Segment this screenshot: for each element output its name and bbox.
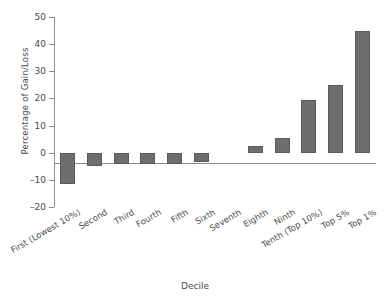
y-tick-label: 20 [35,93,46,103]
chart-figure: Percentage of Gain/Loss –20–100102030405… [0,0,390,304]
bar [248,146,263,153]
bar [355,31,370,153]
bar [167,153,182,164]
bar [275,138,290,153]
y-tick-label: –20 [30,202,46,212]
x-tick-label: Top 1% [346,207,377,231]
y-tick-label: –10 [30,175,46,185]
bar-series [54,17,376,207]
y-tick-label: 10 [35,121,46,131]
y-tick-label: 50 [35,12,46,22]
bar [140,153,155,164]
y-axis-title: Percentage of Gain/Loss [20,16,30,186]
y-tick-label: 40 [35,39,46,49]
bar [328,85,343,153]
x-tick-label: Fifth [169,207,190,225]
x-tick-label: First (Lowest 10%) [9,207,82,255]
bar [114,153,129,164]
plot-area: –20–1001020304050 [54,17,376,207]
bar [60,153,75,184]
x-tick-label: Eighth [242,207,271,229]
bar [194,153,209,163]
y-tick-label: 30 [35,66,46,76]
x-axis-title: Decile [0,281,390,291]
y-tick-label: 0 [40,148,46,158]
x-tick-label: Third [112,207,136,227]
x-axis-tick-labels: First (Lowest 10%)SecondThirdFourthFifth… [54,207,376,277]
x-tick-label: Second [77,207,109,231]
x-tick-label: Top 5% [319,207,350,231]
x-tick-label: Fourth [134,207,163,229]
bar [87,153,102,167]
bar [301,100,316,153]
